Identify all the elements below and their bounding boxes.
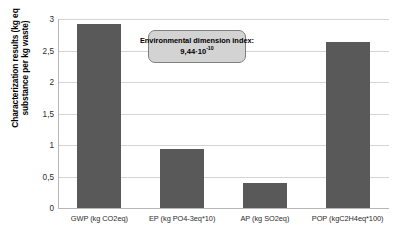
bar[interactable]: [326, 42, 370, 208]
y-axis-tick-label: 2: [6, 78, 54, 87]
bar[interactable]: [243, 183, 287, 208]
x-axis-tick-label: AP (kg SO2eq): [240, 214, 289, 223]
y-axis-tick-label: 0,5: [6, 172, 54, 181]
y-axis-tick-label: 0: [6, 204, 54, 213]
x-axis-tick-labels: GWP (kg CO2eq)EP (kg PO4-3eq*10)AP (kg S…: [58, 214, 389, 232]
annotation-exponent: -10: [206, 45, 214, 51]
y-axis-tick-label: 2,5: [6, 46, 54, 55]
bar-slot: [306, 19, 389, 208]
annotation-callout-box: Environmental dimension index: 9,44·10-1…: [148, 30, 246, 63]
x-axis-tick-label: EP (kg PO4-3eq*10): [149, 214, 215, 223]
x-axis-line: [58, 208, 389, 209]
bar[interactable]: [160, 149, 204, 208]
annotation-value: 9,44·10-10: [180, 46, 213, 57]
annotation-mantissa: 9,44·10: [180, 47, 206, 56]
bar-chart: Characterization results (kg eq substanc…: [0, 0, 396, 241]
y-axis-tick-labels: 00,511,522,53: [0, 19, 54, 208]
y-axis-tick-label: 3: [6, 15, 54, 24]
y-axis-tick-label: 1: [6, 141, 54, 150]
x-axis-tick-label: POP (kgC2H4eq*100): [312, 214, 384, 223]
bar-slot: [58, 19, 141, 208]
bar[interactable]: [77, 24, 121, 208]
x-axis-tick-label: GWP (kg CO2eq): [71, 214, 128, 223]
y-axis-tick-label: 1,5: [6, 109, 54, 118]
annotation-title: Environmental dimension index:: [140, 36, 254, 46]
